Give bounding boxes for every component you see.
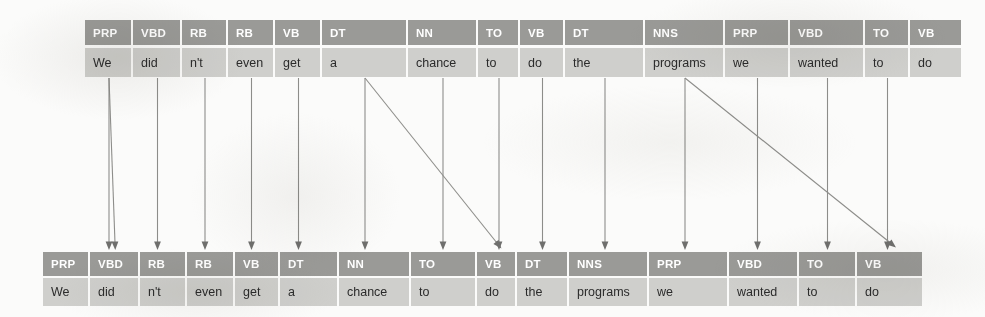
alignment-arrowhead <box>754 242 761 251</box>
token-column: RBn't <box>140 252 187 306</box>
token-column: PRPwe <box>649 252 729 306</box>
token-word-cell: n't <box>140 278 187 306</box>
token-column: PRPwe <box>725 20 790 77</box>
pos-tag-cell: VBD <box>90 252 140 276</box>
token-word-cell: We <box>85 48 133 77</box>
token-word-cell: do <box>520 48 565 77</box>
pos-tag-cell: PRP <box>649 252 729 276</box>
alignment-link-diagonal <box>365 78 497 243</box>
token-word-cell: the <box>565 48 645 77</box>
alignment-arrowhead <box>884 242 891 251</box>
alignment-arrowhead <box>154 242 161 251</box>
pos-tag-cell: VB <box>275 20 322 45</box>
pos-tag-cell: TO <box>865 20 910 45</box>
token-column: VBDwanted <box>729 252 799 306</box>
pos-tag-cell: VB <box>857 252 924 276</box>
token-word-cell: get <box>275 48 322 77</box>
alignment-arrowhead <box>202 242 209 251</box>
token-column: VBget <box>275 20 322 77</box>
pos-tag-cell: VBD <box>133 20 182 45</box>
token-column: DTthe <box>517 252 569 306</box>
pos-tag-cell: TO <box>799 252 857 276</box>
alignment-arrowhead <box>824 242 831 251</box>
token-column: DTthe <box>565 20 645 77</box>
token-word-cell: programs <box>569 278 649 306</box>
token-column: NNchance <box>408 20 478 77</box>
token-column: VBget <box>235 252 280 306</box>
alignment-arrowhead <box>362 242 369 251</box>
token-word-cell: to <box>478 48 520 77</box>
alignment-arrowhead <box>539 242 546 251</box>
token-column: VBdo <box>857 252 924 306</box>
token-column: RBeven <box>187 252 235 306</box>
token-column: PRPWe <box>43 252 90 306</box>
token-column: NNSprograms <box>569 252 649 306</box>
pos-tag-cell: DT <box>280 252 339 276</box>
pos-tag-cell: PRP <box>85 20 133 45</box>
token-column: VBdo <box>477 252 517 306</box>
token-word-cell: did <box>90 278 140 306</box>
token-word-cell: to <box>865 48 910 77</box>
alignment-link-diagonal <box>109 78 115 243</box>
pos-tag-cell: VB <box>910 20 963 45</box>
token-word-cell: do <box>857 278 924 306</box>
alignment-link-diagonal <box>685 78 891 243</box>
token-word-cell: we <box>649 278 729 306</box>
diagram-canvas: PRPWeVBDdidRBn'tRBevenVBgetDTaNNchanceTO… <box>0 0 985 317</box>
pos-tag-cell: VBD <box>790 20 865 45</box>
token-word-cell: even <box>228 48 275 77</box>
pos-tag-cell: TO <box>411 252 477 276</box>
pos-tag-cell: DT <box>517 252 569 276</box>
pos-tag-cell: VB <box>235 252 280 276</box>
token-column: TOto <box>411 252 477 306</box>
pos-tag-cell: PRP <box>43 252 90 276</box>
pos-tag-cell: NNS <box>569 252 649 276</box>
target-sequence-row: PRPWeVBDdidRBn'tRBevenVBgetDTaNNchanceTO… <box>43 252 924 306</box>
token-column: VBDwanted <box>790 20 865 77</box>
pos-tag-cell: PRP <box>725 20 790 45</box>
token-column: VBdo <box>910 20 963 77</box>
alignment-arrowhead <box>440 242 447 251</box>
pos-tag-cell: RB <box>187 252 235 276</box>
token-column: DTa <box>280 252 339 306</box>
token-word-cell: wanted <box>790 48 865 77</box>
token-word-cell: do <box>910 48 963 77</box>
pos-tag-cell: VB <box>477 252 517 276</box>
token-column: RBn't <box>182 20 228 77</box>
pos-tag-cell: NN <box>408 20 478 45</box>
alignment-arrowhead <box>248 242 255 251</box>
token-word-cell: chance <box>339 278 411 306</box>
token-column: VBDdid <box>133 20 182 77</box>
token-word-cell: chance <box>408 48 478 77</box>
token-column: NNSprograms <box>645 20 725 77</box>
token-column: TOto <box>799 252 857 306</box>
alignment-arrowhead <box>295 242 302 251</box>
token-word-cell: to <box>411 278 477 306</box>
pos-tag-cell: NN <box>339 252 411 276</box>
token-word-cell: even <box>187 278 235 306</box>
token-column: VBdo <box>520 20 565 77</box>
alignment-arrowhead <box>493 240 501 249</box>
token-column: TOto <box>478 20 520 77</box>
token-column: RBeven <box>228 20 275 77</box>
token-word-cell: we <box>725 48 790 77</box>
alignment-arrowhead <box>602 242 609 251</box>
pos-tag-cell: DT <box>322 20 408 45</box>
token-word-cell: did <box>133 48 182 77</box>
token-column: VBDdid <box>90 252 140 306</box>
token-word-cell: n't <box>182 48 228 77</box>
pos-tag-cell: DT <box>565 20 645 45</box>
pos-tag-cell: NNS <box>645 20 725 45</box>
alignment-arrowhead <box>887 239 896 247</box>
token-word-cell: a <box>322 48 408 77</box>
alignment-arrowhead <box>682 242 689 251</box>
token-word-cell: wanted <box>729 278 799 306</box>
token-word-cell: do <box>477 278 517 306</box>
source-sequence-row: PRPWeVBDdidRBn'tRBevenVBgetDTaNNchanceTO… <box>85 20 963 77</box>
pos-tag-cell: RB <box>140 252 187 276</box>
pos-tag-cell: RB <box>228 20 275 45</box>
token-word-cell: We <box>43 278 90 306</box>
pos-tag-cell: VBD <box>729 252 799 276</box>
alignment-arrowhead <box>106 242 113 251</box>
token-column: PRPWe <box>85 20 133 77</box>
